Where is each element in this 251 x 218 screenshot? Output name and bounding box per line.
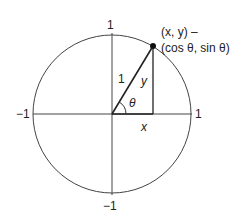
angle-arc <box>119 102 126 114</box>
axis-label-bottom: −1 <box>103 199 117 213</box>
point-marker <box>150 43 156 49</box>
unit-circle-diagram: 1 −1 −1 1 1 θ y x (x, y) – (cos θ, sin θ… <box>0 0 251 218</box>
point-label-line1: (x, y) – <box>161 25 198 39</box>
angle-label: θ <box>129 96 136 110</box>
opposite-label: y <box>140 74 148 88</box>
point-label-line2: (cos θ, sin θ) <box>161 41 230 55</box>
hypotenuse-label: 1 <box>118 72 125 86</box>
axis-label-left: −1 <box>16 107 30 121</box>
axis-label-right: 1 <box>195 107 202 121</box>
adjacent-label: x <box>140 120 148 134</box>
axis-label-top: 1 <box>107 18 114 32</box>
